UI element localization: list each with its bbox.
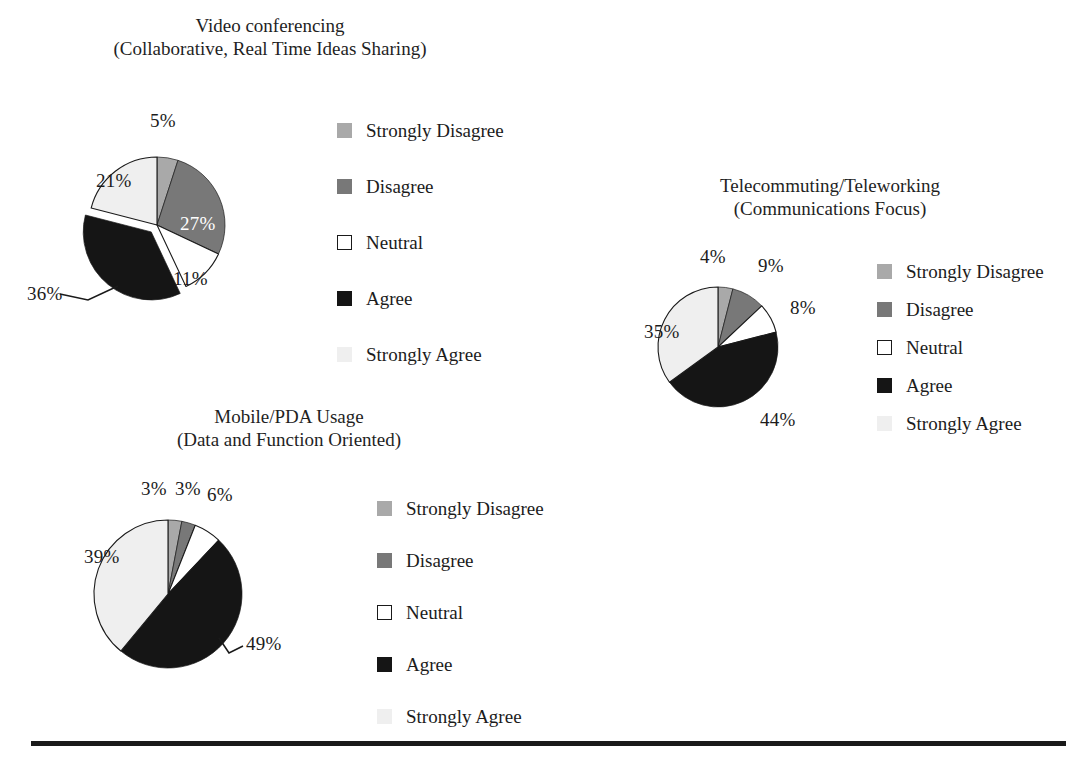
pie-svg-mobile-pda-usage [68, 494, 268, 694]
pie-value-label: 36% [27, 283, 62, 305]
pie-value-label: 3% [141, 478, 167, 500]
legend-label: Strongly Disagree [406, 499, 544, 518]
legend-label: Agree [906, 376, 952, 395]
legend-label: Disagree [906, 300, 974, 319]
legend-label: Disagree [406, 551, 474, 570]
pie-value-label: 4% [700, 246, 726, 268]
legend-video-conferencing: Strongly DisagreeDisagreeNeutralAgreeStr… [337, 102, 504, 382]
chart-title-telecommuting-teleworking: Telecommuting/Teleworking(Communications… [720, 174, 940, 220]
legend-swatch-disagree-icon [377, 553, 392, 568]
legend-telecommuting-teleworking: Strongly DisagreeDisagreeNeutralAgreeStr… [877, 252, 1044, 442]
legend-item-strongly-agree[interactable]: Strongly Agree [377, 690, 544, 742]
pie-value-label: 8% [790, 297, 816, 319]
legend-item-strongly-disagree[interactable]: Strongly Disagree [377, 482, 544, 534]
legend-label: Neutral [406, 603, 463, 622]
legend-label: Disagree [366, 177, 434, 196]
chart-title-line1: Video conferencing [195, 15, 344, 36]
pie-svg-telecommuting-teleworking [632, 261, 804, 433]
legend-swatch-strongly-agree-icon [337, 347, 352, 362]
label-leader-line-video-conferencing [57, 283, 124, 306]
legend-swatch-disagree-icon [877, 302, 892, 317]
legend-item-disagree[interactable]: Disagree [337, 158, 504, 214]
chart-title-video-conferencing: Video conferencing(Collaborative, Real T… [114, 14, 427, 60]
legend-item-neutral[interactable]: Neutral [877, 328, 1044, 366]
pie-chart-mobile-pda-usage [68, 494, 268, 694]
legend-swatch-neutral-icon [377, 605, 392, 620]
legend-swatch-strongly-agree-icon [877, 416, 892, 431]
legend-swatch-neutral-icon [877, 340, 892, 355]
bottom-rule [31, 741, 1066, 746]
legend-item-disagree[interactable]: Disagree [877, 290, 1044, 328]
pie-value-label: 39% [84, 546, 119, 568]
chart-title-line2: (Communications Focus) [720, 197, 940, 220]
pie-value-label: 44% [760, 409, 795, 431]
legend-label: Strongly Agree [906, 414, 1022, 433]
pie-value-label: 5% [150, 110, 176, 132]
pie-value-label: 11% [173, 268, 208, 290]
legend-label: Strongly Disagree [366, 121, 504, 140]
label-leader-line-mobile-pda-usage [216, 635, 249, 659]
legend-swatch-agree-icon [877, 378, 892, 393]
legend-label: Neutral [906, 338, 963, 357]
legend-label: Strongly Agree [366, 345, 482, 364]
pie-value-label: 49% [246, 633, 281, 655]
legend-item-strongly-agree[interactable]: Strongly Agree [877, 404, 1044, 442]
legend-swatch-disagree-icon [337, 179, 352, 194]
chart-title-line2: (Collaborative, Real Time Ideas Sharing) [114, 37, 427, 60]
chart-title-line1: Telecommuting/Teleworking [720, 175, 940, 196]
chart-title-line2: (Data and Function Oriented) [177, 428, 401, 451]
legend-item-strongly-disagree[interactable]: Strongly Disagree [337, 102, 504, 158]
pie-chart-telecommuting-teleworking [632, 261, 804, 433]
legend-swatch-strongly-disagree-icon [877, 264, 892, 279]
legend-swatch-strongly-agree-icon [377, 709, 392, 724]
legend-item-strongly-disagree[interactable]: Strongly Disagree [877, 252, 1044, 290]
legend-swatch-agree-icon [337, 291, 352, 306]
chart-title-mobile-pda-usage: Mobile/PDA Usage(Data and Function Orien… [177, 405, 401, 451]
pie-value-label: 21% [96, 170, 131, 192]
legend-item-agree[interactable]: Agree [877, 366, 1044, 404]
legend-item-neutral[interactable]: Neutral [337, 214, 504, 270]
figure-page: { "figure": { "background": "#ffffff", "… [0, 0, 1091, 759]
legend-label: Agree [366, 289, 412, 308]
legend-swatch-neutral-icon [337, 235, 352, 250]
pie-value-label: 6% [207, 484, 233, 506]
pie-value-label: 3% [175, 478, 201, 500]
pie-value-label: 27% [180, 213, 215, 235]
pie-value-label: 35% [644, 321, 679, 343]
chart-title-line1: Mobile/PDA Usage [214, 406, 363, 427]
legend-item-agree[interactable]: Agree [377, 638, 544, 690]
legend-swatch-strongly-disagree-icon [377, 501, 392, 516]
pie-value-label: 9% [758, 255, 784, 277]
legend-label: Strongly Disagree [906, 262, 1044, 281]
legend-item-agree[interactable]: Agree [337, 270, 504, 326]
legend-label: Agree [406, 655, 452, 674]
legend-item-strongly-agree[interactable]: Strongly Agree [337, 326, 504, 382]
legend-label: Neutral [366, 233, 423, 252]
legend-item-disagree[interactable]: Disagree [377, 534, 544, 586]
legend-swatch-strongly-disagree-icon [337, 123, 352, 138]
legend-swatch-agree-icon [377, 657, 392, 672]
legend-item-neutral[interactable]: Neutral [377, 586, 544, 638]
legend-mobile-pda-usage: Strongly DisagreeDisagreeNeutralAgreeStr… [377, 482, 544, 742]
legend-label: Strongly Agree [406, 707, 522, 726]
